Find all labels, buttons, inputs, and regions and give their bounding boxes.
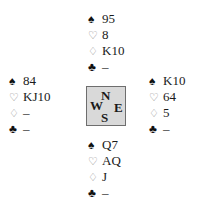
south-diamonds: J xyxy=(102,169,107,185)
south-diamonds-row: ♢J xyxy=(88,169,121,185)
north-clubs-row: ♣– xyxy=(88,59,124,75)
heart-icon: ♡ xyxy=(149,89,163,105)
south-hand: ♠Q7 ♡AQ ♢J ♣– xyxy=(88,137,121,201)
club-icon: ♣ xyxy=(88,185,102,201)
club-icon: ♣ xyxy=(149,121,163,137)
north-diamonds: K10 xyxy=(102,43,124,59)
heart-icon: ♡ xyxy=(9,89,23,105)
spade-icon: ♠ xyxy=(88,11,102,27)
north-spades: 95 xyxy=(102,11,115,27)
east-hearts-row: ♡64 xyxy=(149,89,185,105)
east-diamonds-row: ♢5 xyxy=(149,105,185,121)
east-hearts: 64 xyxy=(163,89,176,105)
east-clubs-row: ♣– xyxy=(149,121,185,137)
south-spades: Q7 xyxy=(102,137,118,153)
west-hand: ♠84 ♡KJ10 ♢– ♣– xyxy=(9,73,50,137)
diamond-icon: ♢ xyxy=(88,169,102,185)
south-hearts: AQ xyxy=(102,153,121,169)
south-clubs: – xyxy=(102,185,109,201)
south-spades-row: ♠Q7 xyxy=(88,137,121,153)
west-hearts: KJ10 xyxy=(23,89,50,105)
compass-east: E xyxy=(114,100,123,116)
south-hearts-row: ♡AQ xyxy=(88,153,121,169)
west-clubs-row: ♣– xyxy=(9,121,50,137)
east-spades: K10 xyxy=(163,73,185,89)
west-spades: 84 xyxy=(23,73,36,89)
east-clubs: – xyxy=(163,121,170,137)
spade-icon: ♠ xyxy=(88,137,102,153)
diamond-icon: ♢ xyxy=(88,43,102,59)
south-clubs-row: ♣– xyxy=(88,185,121,201)
north-hearts: 8 xyxy=(102,27,109,43)
club-icon: ♣ xyxy=(88,59,102,75)
heart-icon: ♡ xyxy=(88,27,102,43)
east-spades-row: ♠K10 xyxy=(149,73,185,89)
west-diamonds-row: ♢– xyxy=(9,105,50,121)
diamond-icon: ♢ xyxy=(9,105,23,121)
north-hand: ♠95 ♡8 ♢K10 ♣– xyxy=(88,11,124,75)
spade-icon: ♠ xyxy=(9,73,23,89)
compass-south: S xyxy=(101,110,108,126)
diamond-icon: ♢ xyxy=(149,105,163,121)
east-hand: ♠K10 ♡64 ♢5 ♣– xyxy=(149,73,185,137)
club-icon: ♣ xyxy=(9,121,23,137)
spade-icon: ♠ xyxy=(149,73,163,89)
north-diamonds-row: ♢K10 xyxy=(88,43,124,59)
north-hearts-row: ♡8 xyxy=(88,27,124,43)
north-clubs: – xyxy=(102,59,109,75)
east-diamonds: 5 xyxy=(163,105,170,121)
heart-icon: ♡ xyxy=(88,153,102,169)
compass-box: N W E S xyxy=(86,86,126,126)
west-spades-row: ♠84 xyxy=(9,73,50,89)
north-spades-row: ♠95 xyxy=(88,11,124,27)
west-diamonds: – xyxy=(23,105,30,121)
west-clubs: – xyxy=(23,121,30,137)
west-hearts-row: ♡KJ10 xyxy=(9,89,50,105)
